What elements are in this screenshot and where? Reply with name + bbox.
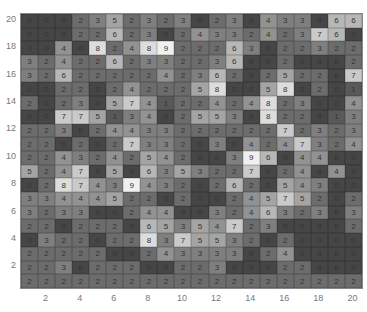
- heatmap-cell: 2: [21, 124, 38, 138]
- heatmap-cell: 0: [89, 96, 106, 110]
- heatmap-cell: 5: [191, 233, 208, 247]
- heatmap-cell: 2: [106, 233, 123, 247]
- heatmap-cell: 4: [209, 219, 226, 233]
- heatmap-cell: 2: [174, 96, 191, 110]
- heatmap-cell: 2: [72, 247, 89, 261]
- heatmap-cell: 0: [55, 14, 72, 28]
- heatmap-cell: 5: [260, 192, 277, 206]
- heatmap-cell: 2: [345, 192, 362, 206]
- heatmap-cell: 0: [123, 219, 140, 233]
- heatmap-cell: 2: [191, 96, 208, 110]
- heatmap-cell: 1: [345, 82, 362, 96]
- y-tick-label: 16: [2, 69, 16, 79]
- y-tick-label: 12: [2, 123, 16, 133]
- heatmap-cell: 3: [243, 41, 260, 55]
- heatmap-cell: 2: [106, 82, 123, 96]
- heatmap-cell: 0: [294, 55, 311, 69]
- heatmap-cell: 2: [38, 178, 55, 192]
- heatmap-cell: 2: [38, 69, 55, 83]
- heatmap-cell: 0: [260, 261, 277, 275]
- heatmap-cell: 0: [157, 261, 174, 275]
- heatmap-cell: 3: [174, 247, 191, 261]
- heatmap-cell: 0: [328, 206, 345, 220]
- heatmap-cell: 3: [294, 96, 311, 110]
- heatmap-cell: 5: [209, 233, 226, 247]
- heatmap-cell: 2: [106, 69, 123, 83]
- heatmap-cell: 0: [157, 192, 174, 206]
- heatmap-cell: 4: [157, 151, 174, 165]
- heatmap-cell: 4: [140, 206, 157, 220]
- heatmap-cell: 3: [157, 178, 174, 192]
- heatmap-cell: 4: [277, 247, 294, 261]
- heatmap-cell: 6: [328, 14, 345, 28]
- heatmap-cell: 2: [243, 274, 260, 288]
- heatmap-cell: 3: [294, 28, 311, 42]
- heatmap-cell: 7: [72, 178, 89, 192]
- heatmap-cell: 2: [294, 69, 311, 83]
- heatmap-cell: 2: [328, 41, 345, 55]
- heatmap-cell: 3: [191, 69, 208, 83]
- heatmap-cell: 0: [328, 247, 345, 261]
- heatmap-cell: 4: [260, 28, 277, 42]
- y-tick-label: 6: [2, 206, 16, 216]
- heatmap-cell: 7: [345, 69, 362, 83]
- heatmap-cell: 7: [55, 110, 72, 124]
- heatmap-cell: 6: [55, 69, 72, 83]
- heatmap-cell: 5: [106, 165, 123, 179]
- heatmap-cell: 2: [311, 274, 328, 288]
- heatmap-cell: 3: [191, 247, 208, 261]
- x-tick-label: 20: [342, 293, 362, 303]
- heatmap-cell: 0: [260, 233, 277, 247]
- heatmap-cell: 2: [328, 124, 345, 138]
- heatmap-cell: 4: [55, 165, 72, 179]
- x-tick-label: 4: [70, 293, 90, 303]
- heatmap-cell: 2: [38, 274, 55, 288]
- heatmap-cell: 2: [294, 274, 311, 288]
- heatmap-cell: 2: [345, 41, 362, 55]
- heatmap-cell: 4: [89, 178, 106, 192]
- heatmap-cell: 0: [226, 261, 243, 275]
- heatmap-cell: 0: [191, 14, 208, 28]
- heatmap-cell: 7: [311, 28, 328, 42]
- heatmap-cell: 8: [140, 233, 157, 247]
- heatmap-cell: 4: [140, 96, 157, 110]
- heatmap-cell: 3: [277, 14, 294, 28]
- heatmap-cell: 2: [106, 219, 123, 233]
- heatmap-cell: 4: [55, 192, 72, 206]
- heatmap-cell: 2: [55, 96, 72, 110]
- x-tick-label: 10: [172, 293, 192, 303]
- y-tick-label: 4: [2, 233, 16, 243]
- heatmap-cell: 2: [72, 28, 89, 42]
- heatmap-cell: 2: [89, 261, 106, 275]
- heatmap-cell: 2: [226, 206, 243, 220]
- y-tick-label: 20: [2, 14, 16, 24]
- heatmap-cell: 0: [311, 219, 328, 233]
- heatmap-cell: 2: [311, 82, 328, 96]
- heatmap-cell: 2: [55, 274, 72, 288]
- heatmap-cell: 0: [345, 261, 362, 275]
- heatmap-cell: 4: [55, 151, 72, 165]
- heatmap-cell: 2: [89, 124, 106, 138]
- heatmap-cell: 0: [260, 41, 277, 55]
- heatmap-cell: 2: [209, 274, 226, 288]
- heatmap-cell: 5: [89, 110, 106, 124]
- heatmap-cell: 4: [89, 192, 106, 206]
- heatmap-cell: 3: [140, 14, 157, 28]
- heatmap-cell: 3: [72, 151, 89, 165]
- heatmap-cell: 3: [72, 96, 89, 110]
- heatmap-cell: 0: [328, 219, 345, 233]
- heatmap-cell: 2: [123, 274, 140, 288]
- heatmap-cell: 0: [311, 165, 328, 179]
- heatmap-cell: 0: [345, 151, 362, 165]
- heatmap-cell: 2: [260, 124, 277, 138]
- heatmap-cell: 0: [311, 55, 328, 69]
- heatmap-cell: 2: [38, 261, 55, 275]
- heatmap-cell: 3: [21, 55, 38, 69]
- heatmap-cell: 2: [328, 274, 345, 288]
- heatmap-cell: 2: [277, 261, 294, 275]
- heatmap-cell: 8: [55, 178, 72, 192]
- heatmap-cell: 4: [311, 151, 328, 165]
- heatmap-cell: 3: [191, 165, 208, 179]
- heatmap-cell: 3: [209, 206, 226, 220]
- heatmap-cell: 2: [294, 41, 311, 55]
